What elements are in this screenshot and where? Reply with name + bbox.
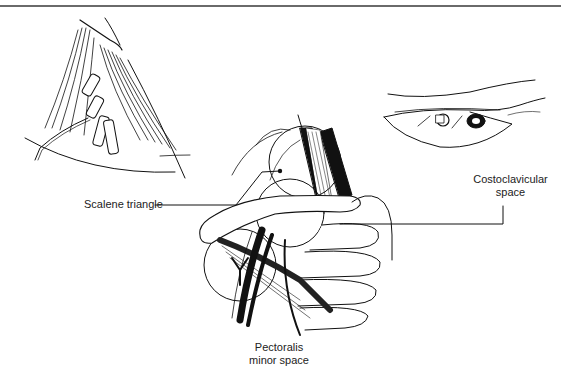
neck-muscles-inset [25, 18, 190, 178]
label-text-line1: Costoclavicular [463, 173, 558, 186]
costoclavicular-leader-line [340, 206, 503, 224]
label-text-line2: minor space [236, 354, 322, 367]
costoclavicular-inset [384, 80, 545, 147]
label-pectoralis-minor-space: Pectoralis minor space [236, 341, 322, 367]
label-scalene-triangle: Scalene triangle [84, 198, 163, 211]
label-text: Scalene triangle [84, 198, 163, 210]
label-costoclavicular-space: Costoclavicular space [463, 173, 558, 199]
label-text-line1: Pectoralis [236, 341, 322, 354]
main-shoulder-view [200, 115, 392, 335]
label-text-line2: space [463, 186, 558, 199]
